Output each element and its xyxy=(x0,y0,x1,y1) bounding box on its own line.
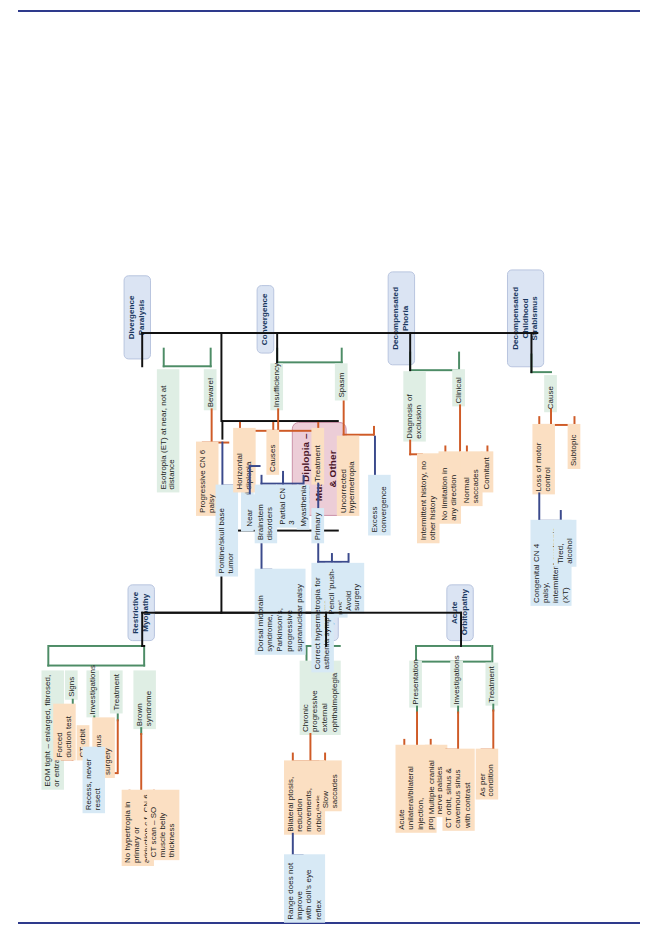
dph-normal-saccades[interactable]: Normal saccades xyxy=(460,451,482,506)
dph-no-limitation[interactable]: No limitation in any direction xyxy=(439,451,461,523)
dp-pontine[interactable]: Pontine/skull base tumor xyxy=(216,485,238,577)
stem-divergence xyxy=(141,332,143,367)
trunk-lower-vertical xyxy=(141,332,538,334)
page-rule-bottom xyxy=(18,922,640,924)
ao-investigations[interactable]: Investigations xyxy=(450,661,463,708)
rm-ct-scan-so[interactable]: CT scan – SO muscle belly thickness xyxy=(147,790,179,860)
cv-brainstem-disorders[interactable]: Brainstem disorders xyxy=(255,485,277,544)
dcs-green-spine xyxy=(530,372,552,374)
stem-phoria xyxy=(409,332,411,371)
cv-causes[interactable]: Causes xyxy=(266,430,279,475)
cv-primary[interactable]: Primary xyxy=(311,508,324,543)
rm-recess-never-resect[interactable]: Recess, never resect xyxy=(83,747,105,814)
dp-beware[interactable]: Beware! xyxy=(204,369,217,410)
dcs-cause[interactable]: Cause xyxy=(544,375,557,412)
page-rule-top xyxy=(18,10,640,12)
dph-intermittent[interactable]: Intermittent history, no other history xyxy=(417,453,439,543)
branch-divergence-paralysis[interactable]: Divergence Paralysis xyxy=(124,275,151,359)
page-canvas: 5.28 Diplopia – Muscle, Orbit & Other Re… xyxy=(0,0,658,934)
cv-partial-cn3[interactable]: Partial CN 3 xyxy=(276,485,298,528)
cv-avoid-surgery[interactable]: Avoid surgery xyxy=(342,563,364,614)
root-stem-lower xyxy=(221,420,223,440)
ao-ct-orbit-sinus[interactable]: CT orbit, sinus & cavernous sinus with c… xyxy=(442,749,474,831)
rm-investigations[interactable]: Investigations xyxy=(86,670,99,717)
dcs-tired-alcohol[interactable]: Tired, alcohol xyxy=(554,520,576,567)
cv-horizontal-diplopia[interactable]: Horizontal diplopia xyxy=(233,428,255,493)
trunk-lower xyxy=(220,332,222,422)
branch-decompensated-childhood-strabismus[interactable]: Decompensated Childhood Strabismus xyxy=(507,269,544,367)
dcs-subtopic[interactable]: Subtopic xyxy=(568,424,581,469)
stem-childhood xyxy=(530,332,532,373)
ao-green-spine xyxy=(415,645,491,647)
trunk-upper-vertical xyxy=(141,612,462,614)
dph-diagnosis-exclusion[interactable]: Diagnosis of exclusion xyxy=(403,371,425,441)
cv-uncorrected-hypermetropia[interactable]: Uncorrected hypermetropia xyxy=(337,436,359,516)
cv-excess-convergence[interactable]: Excess convergence xyxy=(368,475,390,536)
stem-restrictive xyxy=(141,612,143,647)
stem-acute-orbitopathy xyxy=(460,612,462,647)
rm-treatment[interactable]: Treatment xyxy=(110,670,123,713)
cv-spasm[interactable]: Spasm xyxy=(335,363,348,400)
dp-green-spine xyxy=(163,366,212,368)
rm-forced-duction-test[interactable]: Forced duction test xyxy=(53,704,75,761)
dp-esotropia[interactable]: Esotropia (ET) at near, not at distance xyxy=(157,369,179,492)
cv-myasthenia[interactable]: Myasthenia xyxy=(297,485,310,530)
dph-comitant[interactable]: Comitant xyxy=(481,451,494,492)
pm-dolls-eye[interactable]: Range does not improve with doll's eye r… xyxy=(284,854,326,922)
stem-paretic xyxy=(325,612,327,647)
cv-insufficiency[interactable]: Insufficiency xyxy=(270,363,283,410)
pm-slow-saccades[interactable]: Slow saccades xyxy=(319,760,341,811)
dcs-loss-motor-control[interactable]: Loss of motor control xyxy=(532,424,554,494)
rm-green-top xyxy=(47,647,49,667)
rm-green-spine xyxy=(47,645,145,647)
cv-green-spine xyxy=(276,362,343,364)
cv-treatment[interactable]: Treatment xyxy=(311,428,324,485)
dph-clinical[interactable]: Clinical xyxy=(452,369,465,406)
rm-signs[interactable]: Signs xyxy=(65,670,78,699)
rm-brown-syndrome[interactable]: Brown syndrome xyxy=(133,670,155,729)
rm-green-bottom xyxy=(143,647,145,667)
ao-as-per-condition[interactable]: As per condition xyxy=(476,749,498,800)
ao-treatment[interactable]: Treatment xyxy=(485,663,498,706)
ao-presentation[interactable]: Presentation xyxy=(409,661,422,708)
mindmap-canvas: 5.28 Diplopia – Muscle, Orbit & Other Re… xyxy=(26,27,632,907)
branch-convergence[interactable]: Convergence xyxy=(257,285,275,353)
stem-convergence xyxy=(276,332,278,363)
